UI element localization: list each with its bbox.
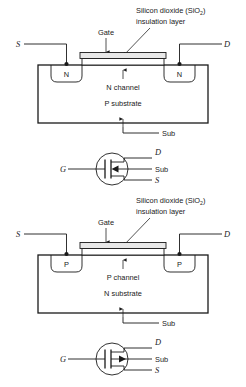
- drain-lead: [180, 44, 223, 63]
- source-terminal-label: S: [16, 40, 21, 49]
- mosfet-figure: Silicon dioxide (SiO2) insulation layer …: [0, 0, 246, 387]
- oxide-callout-pointer: [123, 28, 150, 56]
- panel-n-channel-cross-section: Silicon dioxide (SiO2) insulation layer …: [16, 6, 230, 138]
- symbol-gate-label: G: [60, 165, 66, 174]
- substrate-lead-2: [123, 317, 159, 323]
- source-lead-2: [24, 234, 67, 253]
- source-well-label-2: P: [64, 260, 69, 269]
- panel-p-channel-symbol: G D Sub S: [60, 338, 168, 375]
- gate-label: Gate: [98, 28, 114, 37]
- symbol-source-branch-2: [111, 366, 124, 370]
- p-substrate-label: P substrate: [104, 99, 141, 108]
- source-lead: [24, 44, 67, 63]
- symbol-substrate-arrowhead-2: [119, 356, 126, 363]
- p-channel-label: P channel: [107, 273, 140, 282]
- symbol-drain-branch-2: [111, 348, 124, 352]
- drain-terminal-label: D: [223, 40, 230, 49]
- source-contact-dot-2: [64, 252, 68, 256]
- symbol-drain-label: D: [154, 148, 161, 157]
- panel-n-channel-symbol: G D Sub S: [60, 148, 168, 185]
- symbol-substrate-arrowhead: [112, 166, 119, 173]
- gate-label-2: Gate: [98, 218, 114, 227]
- n-channel-label: N channel: [106, 83, 140, 92]
- symbol-drain-label-2: D: [154, 338, 161, 347]
- oxide-callout-line2-2: insulation layer: [136, 207, 186, 216]
- substrate-terminal-label: Sub: [162, 129, 175, 138]
- gate-metal-2: [80, 243, 166, 249]
- source-well-label: N: [64, 70, 69, 79]
- source-contact-dot: [64, 62, 68, 66]
- drain-terminal-label-2: D: [223, 230, 230, 239]
- drain-lead-2: [180, 234, 223, 253]
- gate-metal: [80, 53, 166, 59]
- substrate-terminal-label-2: Sub: [162, 319, 175, 328]
- panel-p-channel-cross-section: Silicon dioxide (SiO2) insulation layer …: [16, 196, 230, 328]
- oxide-layer-2: [82, 249, 164, 256]
- symbol-substrate-label: Sub: [155, 165, 168, 174]
- drain-contact-dot: [177, 62, 181, 66]
- n-substrate-label: N substrate: [104, 289, 142, 298]
- oxide-callout-line1-2: Silicon dioxide (SiO2): [136, 196, 205, 206]
- substrate-lead: [123, 127, 159, 133]
- symbol-source-label: S: [155, 176, 160, 185]
- source-terminal-label-2: S: [16, 230, 21, 239]
- oxide-callout-pointer-2: [123, 218, 150, 246]
- symbol-substrate-label-2: Sub: [155, 355, 168, 364]
- symbol-source-label-2: S: [155, 366, 160, 375]
- symbol-gate-label-2: G: [60, 355, 66, 364]
- drain-well-label-2: P: [177, 260, 182, 269]
- drain-contact-dot-2: [177, 252, 181, 256]
- drain-well-label: N: [177, 70, 182, 79]
- symbol-drain-branch: [111, 158, 124, 162]
- oxide-callout-line1: Silicon dioxide (SiO2): [136, 6, 205, 16]
- symbol-source-branch: [111, 176, 124, 180]
- oxide-callout-line2: insulation layer: [136, 17, 186, 26]
- oxide-layer: [82, 59, 164, 66]
